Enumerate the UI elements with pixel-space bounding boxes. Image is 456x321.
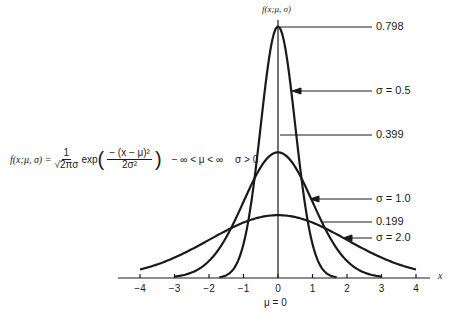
sigma-label-20: σ = 2.0 — [376, 231, 411, 243]
mean-label: μ = 0 — [264, 297, 287, 308]
x-tick-label: −1 — [238, 283, 249, 294]
y-axis-label: f(x;μ, σ) — [262, 4, 291, 14]
x-axis-label: x — [438, 270, 442, 281]
x-tick-label: 2 — [344, 283, 350, 294]
left-paren: ( — [98, 149, 105, 169]
formula-exp: exp — [81, 154, 97, 165]
x-tick-label: −4 — [134, 283, 145, 294]
formula-lhs: f(x;μ, σ) = — [10, 154, 51, 165]
mu-domain: − ∞ < μ < ∞ — [172, 154, 223, 165]
sigma-label-10: σ = 1.0 — [376, 192, 411, 204]
exponent-numerator: − (x − μ)² — [107, 148, 152, 160]
arrowhead-icon — [292, 88, 301, 94]
x-tick-label: 4 — [413, 283, 419, 294]
formula-coefficient: 1 √2πσ — [54, 148, 78, 170]
x-tick-label: 3 — [379, 283, 385, 294]
x-tick-label: 1 — [310, 283, 316, 294]
sigma-label-05: σ = 0.5 — [376, 84, 411, 96]
sigma-domain: σ > 0 — [235, 154, 258, 165]
peak-value-0399: 0.399 — [376, 128, 404, 140]
coefficient-denominator: √2πσ — [54, 160, 78, 171]
peak-value-0199: 0.199 — [376, 215, 404, 227]
coefficient-numerator: 1 — [62, 148, 72, 160]
right-paren: ) — [155, 149, 162, 169]
x-tick-label: 0 — [275, 283, 281, 294]
formula-exponent: − (x − μ)² 2σ² — [107, 148, 152, 170]
pdf-formula: f(x;μ, σ) = 1 √2πσ exp ( − (x − μ)² 2σ² … — [10, 148, 258, 170]
x-tick-label: −3 — [169, 283, 180, 294]
peak-value-0798: 0.798 — [376, 20, 404, 32]
exponent-denominator: 2σ² — [122, 160, 137, 171]
x-tick-label: −2 — [203, 283, 214, 294]
